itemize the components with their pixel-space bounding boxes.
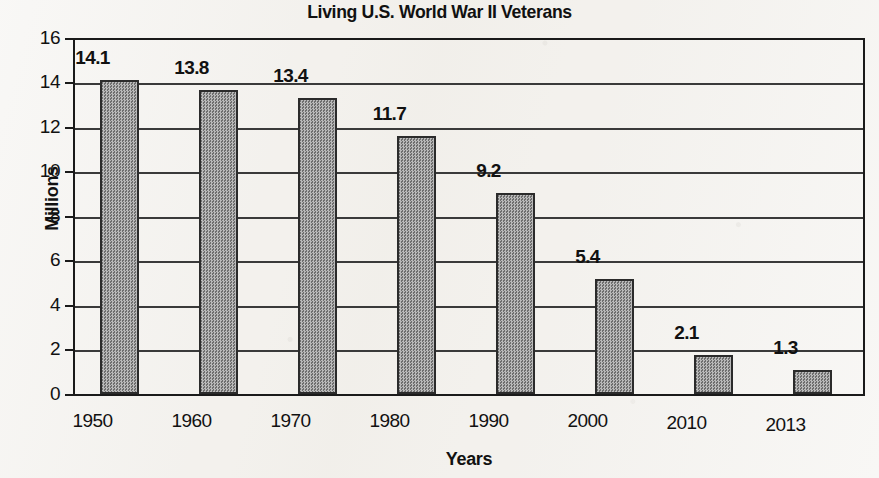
y-tick-label-12: 12 [8, 120, 60, 134]
bar-1970 [298, 98, 337, 394]
y-tick-6 [65, 260, 73, 262]
chart-title: Living U.S. World War II Veterans [31, 0, 848, 24]
y-tick-10 [65, 171, 73, 173]
y-tick-label-2: 2 [8, 342, 60, 356]
gridline-6 [75, 261, 863, 263]
x-tick-label-2000: 2000 [558, 410, 617, 432]
y-tick-label-14: 14 [8, 75, 60, 89]
bar-value-1950: 14.1 [68, 48, 117, 68]
x-tick-label-1980: 1980 [360, 410, 419, 432]
y-tick-label-10: 10 [8, 164, 60, 178]
gridline-4 [75, 306, 863, 308]
x-tick-label-2013: 2013 [756, 414, 815, 436]
bar-value-1990: 9.2 [464, 161, 513, 181]
x-tick-label-1970: 1970 [261, 410, 320, 432]
bar-value-2000: 5.4 [563, 247, 612, 267]
bar-value-1960: 13.8 [167, 58, 216, 78]
y-tick-label-4: 4 [8, 298, 60, 312]
bar-1960 [199, 90, 238, 394]
y-tick-label-0: 0 [8, 387, 60, 401]
bar-value-2013: 1.3 [761, 338, 810, 358]
bar-value-1970: 13.4 [266, 66, 315, 86]
y-tick-4 [65, 305, 73, 307]
gridline-14 [75, 83, 863, 85]
x-tick-label-1960: 1960 [162, 410, 221, 432]
bar-1980 [397, 136, 436, 394]
y-tick-14 [65, 82, 73, 84]
bar-2013 [793, 370, 832, 394]
gridline-8 [75, 217, 863, 219]
x-axis-title: Years [73, 449, 865, 470]
bar-value-2010: 2.1 [662, 323, 711, 343]
gridline-12 [75, 128, 863, 130]
bar-1950 [100, 80, 139, 394]
y-tick-0 [65, 394, 73, 396]
y-tick-label-16: 16 [8, 31, 60, 45]
y-tick-16 [65, 38, 73, 40]
y-tick-label-8: 8 [8, 209, 60, 223]
x-tick-label-1950: 1950 [63, 410, 122, 432]
y-tick-label-6: 6 [8, 253, 60, 267]
y-tick-2 [65, 349, 73, 351]
bar-2010 [694, 355, 733, 394]
bar-1990 [496, 193, 535, 394]
y-tick-8 [65, 216, 73, 218]
chart-figure: Living U.S. World War II Veterans Millio… [0, 0, 879, 478]
x-tick-label-2010: 2010 [657, 412, 716, 434]
gridline-2 [75, 350, 863, 352]
bar-2000 [595, 279, 634, 394]
bar-value-1980: 11.7 [365, 104, 414, 124]
y-tick-12 [65, 127, 73, 129]
x-tick-label-1990: 1990 [459, 410, 518, 432]
plot-area [73, 38, 865, 396]
